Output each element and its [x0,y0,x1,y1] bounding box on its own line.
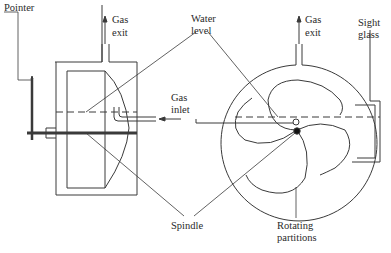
label-gas-exit-right-2: exit [305,27,321,38]
label-water-level-2: level [191,25,211,36]
label-rotating-partitions-1: Rotating [277,220,313,231]
label-gas-exit-left-2: exit [112,27,128,38]
label-pointer: Pointer [4,2,34,13]
gas-inlet-port [293,119,299,125]
label-spindle: Spindle [171,220,203,231]
label-water-level-1: Water [191,13,216,24]
label-sight-glass-1: Sight [358,17,380,28]
diagram-canvas [0,0,391,253]
gas-exit-right-arrow [297,16,301,44]
gas-exit-left-arrow [103,16,107,44]
label-gas-exit-right-1: Gas [305,14,321,25]
label-gas-inlet-1: Gas [171,92,187,103]
label-gas-inlet-2: inlet [171,104,190,115]
gas-inlet-line-right [196,119,293,123]
rotating-partitions [235,80,349,193]
wet-gas-meter-diagram: Pointer Gas exit Water level Gas inlet G… [0,0,391,253]
leader-lines [86,32,296,218]
label-sight-glass-2: glass [358,29,379,40]
pointer-needle [31,76,33,140]
sight-glass [352,30,380,162]
pointer-leader [4,12,31,80]
label-gas-exit-left-1: Gas [112,14,128,25]
label-rotating-partitions-2: partitions [277,232,317,243]
